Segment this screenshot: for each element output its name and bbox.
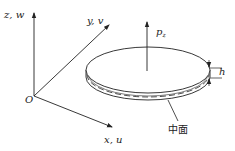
x-axis-label: x, u	[104, 135, 122, 145]
plate-diagram: z, w y, v x, u O pz h 中面	[0, 0, 235, 151]
load-subscript: z	[162, 31, 165, 38]
mid-surface-leader	[168, 100, 178, 121]
mid-surface-label: 中面	[168, 125, 188, 135]
thickness-label: h	[219, 67, 225, 77]
y-axis-label: y, v	[87, 16, 103, 26]
origin-label: O	[25, 95, 33, 105]
z-axis-label: z, w	[4, 10, 24, 20]
plate-top-surface	[86, 47, 210, 93]
plate	[86, 47, 210, 100]
diagram-canvas	[0, 0, 235, 151]
load-label: pz	[156, 27, 166, 38]
x-axis	[34, 96, 112, 127]
